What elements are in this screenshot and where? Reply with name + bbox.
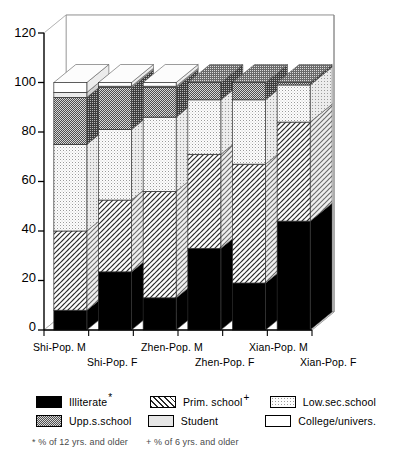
legend-label-low-sec-school: Low.sec.school [303, 396, 376, 408]
legend-item-college: College/univers. [265, 415, 376, 427]
xaxis-label-shi-f: Shi-Pop. F [87, 356, 138, 368]
chart-root: 120 100 80 60 40 20 0 Shi-Pop. M Zhen-Po… [0, 0, 394, 469]
xaxis-label-zhen-f: Zhen-Pop. F [195, 356, 254, 368]
xaxis-label-zhen-m: Zhen-Pop. M [141, 341, 203, 353]
plot-area: 120 100 80 60 40 20 0 Shi-Pop. M Zhen-Po… [0, 0, 394, 340]
xaxis-label-shi-m: Shi-Pop. M [33, 341, 86, 353]
ytick-label: 0 [0, 320, 36, 333]
footnote-star: * % of 12 yrs. and older [32, 437, 128, 447]
footnotes: * % of 12 yrs. and older+ % of 6 yrs. an… [32, 437, 239, 447]
legend-swatch-illiterate [36, 396, 62, 408]
bars-layer [54, 65, 332, 331]
legend-swatch-college [265, 415, 291, 427]
legend-label-illiterate: Illiterate [69, 396, 107, 408]
ytick-label: 60 [0, 173, 36, 186]
legend-item-illiterate: Illiterate* [36, 396, 150, 408]
xaxis-label-xian-m: Xian-Pop. M [249, 341, 308, 353]
legend-label-college: College/univers. [298, 415, 376, 427]
legend-row-1: Illiterate* Prim. school+ Low.sec.school [36, 396, 376, 415]
legend-marker-star: * [108, 395, 112, 401]
ytick-label: 20 [0, 271, 36, 284]
legend-item-student: Student [148, 415, 265, 427]
legend-swatch-prim-school [150, 396, 176, 408]
ytick-label: 100 [0, 75, 36, 88]
legend-item-upp-s-school: Upp.s.school [36, 415, 148, 427]
legend-label-upp-s-school: Upp.s.school [69, 415, 132, 427]
legend-item-prim-school: Prim. school+ [150, 396, 270, 408]
legend-swatch-student [148, 415, 174, 427]
xaxis-label-xian-f: Xian-Pop. F [300, 356, 357, 368]
legend-item-low-sec-school: Low.sec.school [270, 396, 376, 408]
legend-swatch-upp-s-school [36, 415, 62, 427]
legend-label-student: Student [181, 415, 218, 427]
legend-marker-plus: + [244, 395, 250, 401]
footnote-plus: + % of 6 yrs. and older [146, 437, 239, 447]
legend-swatch-low-sec-school [270, 396, 296, 408]
legend-label-prim-school: Prim. school [183, 396, 243, 408]
chart-legend: Illiterate* Prim. school+ Low.sec.school… [36, 396, 376, 434]
bar-column [277, 65, 332, 331]
ytick-label: 40 [0, 222, 36, 235]
ytick-label: 80 [0, 124, 36, 137]
legend-row-2: Upp.s.school Student College/univers. [36, 415, 376, 434]
chart-svg [0, 0, 394, 345]
ytick-label: 120 [0, 26, 36, 39]
